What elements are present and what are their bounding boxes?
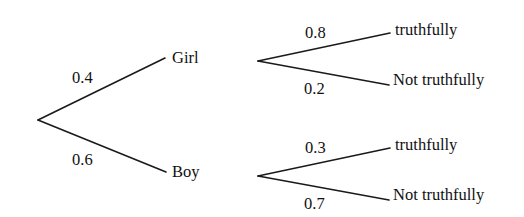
leaf-label-boy-truthfully: truthfully [395, 137, 457, 154]
branch-line-root-to-boy [38, 120, 166, 172]
probability-tree-diagram: Girl Boy 0.4 0.6 0.8 0.2 0.3 0.7 truthfu… [0, 0, 524, 217]
probability-label-boy: 0.6 [72, 152, 93, 169]
leaf-label-girl-truthfully: truthfully [395, 22, 457, 39]
probability-label-girl: 0.4 [72, 70, 93, 87]
probability-label-boy-not-truthfully: 0.7 [304, 196, 325, 213]
leaf-label-boy-not-truthfully: Not truthfully [393, 187, 484, 204]
branch-line-root-to-girl [38, 58, 165, 120]
probability-label-girl-truthfully: 0.8 [305, 25, 326, 42]
leaf-label-girl-not-truthfully: Not truthfully [393, 72, 484, 89]
probability-label-girl-not-truthfully: 0.2 [304, 81, 325, 98]
probability-label-boy-truthfully: 0.3 [305, 140, 326, 157]
node-label-girl: Girl [172, 50, 199, 67]
node-label-boy: Boy [172, 164, 200, 181]
